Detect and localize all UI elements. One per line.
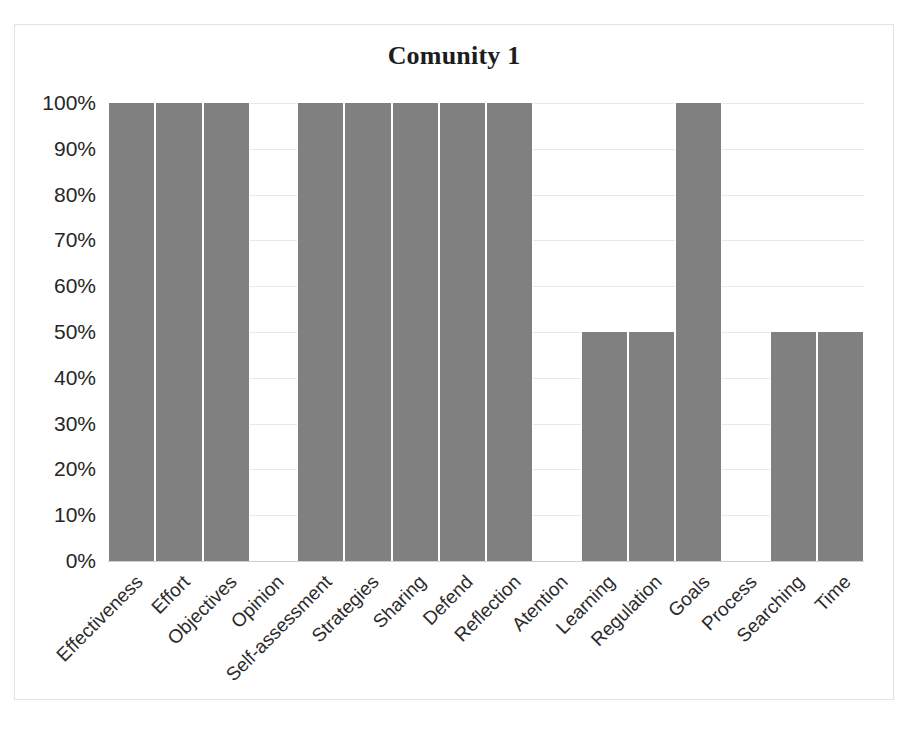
bar-slot	[439, 103, 486, 561]
x-axis-tick-label: Effectiveness	[52, 571, 147, 666]
y-axis-tick-label: 80%	[54, 183, 96, 207]
bar-slot	[486, 103, 533, 561]
bar[interactable]	[108, 103, 155, 561]
bar[interactable]	[581, 332, 628, 561]
bar-slot	[581, 103, 628, 561]
gridline	[108, 561, 864, 562]
chart-frame: Comunity 1 0%10%20%30%40%50%60%70%80%90%…	[14, 24, 894, 700]
bar[interactable]	[628, 332, 675, 561]
bar[interactable]	[770, 332, 817, 561]
x-axis-tick-slot: Time	[817, 565, 864, 695]
bar-slot	[344, 103, 391, 561]
y-axis-tick-label: 60%	[54, 274, 96, 298]
x-axis-tick-slot: Regulation	[628, 565, 675, 695]
bar-slot	[297, 103, 344, 561]
y-axis-tick-label: 70%	[54, 228, 96, 252]
bar[interactable]	[817, 332, 864, 561]
x-axis-tick-label: Time	[811, 571, 856, 616]
bar-series	[108, 103, 864, 561]
x-axis-tick-slot: Searching	[770, 565, 817, 695]
bar-slot	[722, 103, 769, 561]
bar[interactable]	[392, 103, 439, 561]
plot-area: 0%10%20%30%40%50%60%70%80%90%100%	[108, 103, 864, 561]
chart-title: Comunity 1	[15, 41, 893, 71]
bar-slot	[250, 103, 297, 561]
bar-slot	[817, 103, 864, 561]
bar-slot	[108, 103, 155, 561]
y-axis-tick-label: 100%	[42, 91, 96, 115]
x-axis-tick-labels: EffectivenessEffortObjectivesOpinionSelf…	[108, 565, 864, 695]
bar-slot	[155, 103, 202, 561]
y-axis-tick-label: 30%	[54, 412, 96, 436]
bar-slot	[628, 103, 675, 561]
y-axis-tick-label: 0%	[66, 549, 96, 573]
bar[interactable]	[155, 103, 202, 561]
bar[interactable]	[486, 103, 533, 561]
bar-slot	[770, 103, 817, 561]
bar[interactable]	[439, 103, 486, 561]
bar[interactable]	[344, 103, 391, 561]
y-axis-tick-label: 20%	[54, 457, 96, 481]
x-axis-tick-slot: Effectiveness	[108, 565, 155, 695]
y-axis-tick-label: 40%	[54, 366, 96, 390]
bar[interactable]	[203, 103, 250, 561]
bar-slot	[533, 103, 580, 561]
bar-slot	[392, 103, 439, 561]
bar[interactable]	[297, 103, 344, 561]
bar[interactable]	[675, 103, 722, 561]
x-axis-tick-slot: Sharing	[392, 565, 439, 695]
y-axis-tick-label: 50%	[54, 320, 96, 344]
y-axis-tick-label: 90%	[54, 137, 96, 161]
bar-slot	[675, 103, 722, 561]
bar-slot	[203, 103, 250, 561]
y-axis-tick-label: 10%	[54, 503, 96, 527]
